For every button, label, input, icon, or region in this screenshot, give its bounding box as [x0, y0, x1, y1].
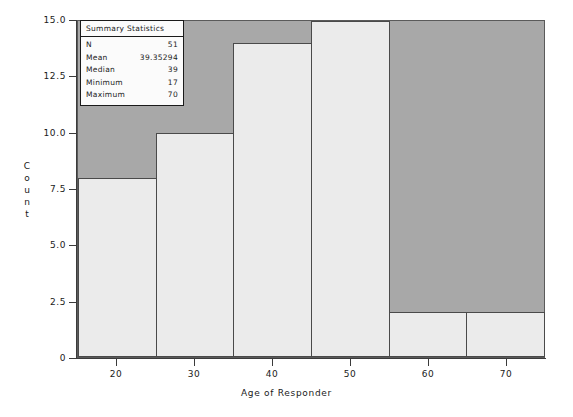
- summary-statistics-row: Mean39.35294: [86, 52, 178, 65]
- x-tick-label: 30: [174, 369, 214, 379]
- y-axis-title: Count: [20, 160, 34, 220]
- summary-statistics-box: Summary Statistics N51Mean39.35294Median…: [80, 20, 184, 106]
- y-axis-title-letter: t: [20, 208, 34, 220]
- y-axis-title-letter: n: [20, 196, 34, 208]
- summary-stat-value: 39.35294: [140, 52, 178, 65]
- y-tick-label: 10.0: [22, 128, 66, 138]
- histogram-bar: [233, 43, 312, 357]
- summary-stat-label: N: [86, 39, 92, 52]
- summary-statistics-row: N51: [86, 39, 178, 52]
- summary-statistics-row: Median39: [86, 64, 178, 77]
- x-tick-label: 70: [486, 369, 526, 379]
- y-tick-mark: [69, 133, 76, 134]
- y-tick-label: 5.0: [22, 240, 66, 250]
- histogram-bar: [156, 133, 235, 357]
- x-tick-label: 20: [96, 369, 136, 379]
- histogram-bar: [389, 312, 468, 357]
- y-tick-mark: [69, 302, 76, 303]
- summary-stat-value: 39: [168, 64, 178, 77]
- x-axis-line: [76, 358, 546, 359]
- x-tick-mark: [428, 359, 429, 366]
- histogram-bar: [466, 312, 545, 357]
- summary-stat-label: Minimum: [86, 77, 123, 90]
- x-tick-mark: [194, 359, 195, 366]
- x-tick-label: 40: [252, 369, 292, 379]
- summary-stat-value: 17: [168, 77, 178, 90]
- summary-stat-label: Maximum: [86, 89, 125, 102]
- x-tick-label: 60: [408, 369, 448, 379]
- y-tick-label: 15.0: [22, 15, 66, 25]
- summary-stat-label: Mean: [86, 52, 108, 65]
- y-axis-title-letter: o: [20, 172, 34, 184]
- y-tick-label: 12.5: [22, 71, 66, 81]
- summary-statistics-row: Minimum17: [86, 77, 178, 90]
- y-tick-label: 2.5: [22, 297, 66, 307]
- summary-stat-value: 51: [168, 39, 178, 52]
- x-axis-title: Age of Responder: [0, 388, 573, 398]
- y-axis-line: [76, 20, 77, 359]
- histogram-figure: 02.55.07.510.012.515.0 203040506070 Age …: [0, 0, 573, 417]
- y-tick-mark: [69, 189, 76, 190]
- summary-stat-label: Median: [86, 64, 115, 77]
- summary-statistics-rows: N51Mean39.35294Median39Minimum17Maximum7…: [81, 37, 183, 105]
- y-tick-mark: [69, 358, 76, 359]
- x-tick-mark: [506, 359, 507, 366]
- y-axis-title-letter: C: [20, 160, 34, 172]
- x-tick-label: 50: [330, 369, 370, 379]
- x-tick-mark: [272, 359, 273, 366]
- y-axis-title-letter: u: [20, 184, 34, 196]
- histogram-bar: [78, 178, 157, 357]
- x-tick-mark: [350, 359, 351, 366]
- y-tick-mark: [69, 76, 76, 77]
- y-tick-mark: [69, 20, 76, 21]
- summary-statistics-row: Maximum70: [86, 89, 178, 102]
- summary-stat-value: 70: [168, 89, 178, 102]
- y-tick-label: 0: [22, 353, 66, 363]
- y-tick-mark: [69, 245, 76, 246]
- summary-statistics-title: Summary Statistics: [81, 21, 183, 37]
- x-tick-mark: [116, 359, 117, 366]
- histogram-bar: [311, 21, 390, 357]
